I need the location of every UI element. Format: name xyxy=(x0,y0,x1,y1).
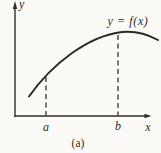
function-curve xyxy=(29,32,158,97)
figure-canvas: y x a b y = f(x) (a) xyxy=(0,0,161,153)
x-axis-arrow-icon xyxy=(145,114,152,118)
y-axis-arrow-icon xyxy=(13,1,17,9)
point-b-label: b xyxy=(115,119,121,133)
function-graph-figure: y x a b y = f(x) (a) xyxy=(0,0,161,153)
point-a-label: a xyxy=(43,120,49,134)
curve-label: y = f(x) xyxy=(107,14,149,28)
figure-caption: (a) xyxy=(72,137,85,150)
y-axis-label: y xyxy=(18,0,25,11)
x-axis-label: x xyxy=(144,120,151,134)
